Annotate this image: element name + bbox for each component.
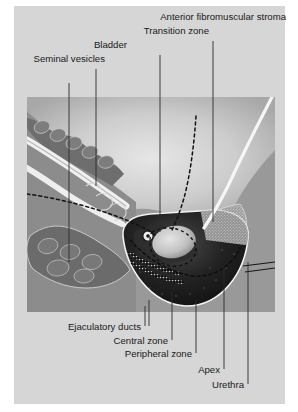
label-transition-zone: Transition zone bbox=[144, 25, 209, 36]
label-apex: Apex bbox=[198, 364, 220, 375]
label-bladder: Bladder bbox=[94, 39, 128, 50]
label-anterior-fibromuscular-stroma: Anterior fibromuscular stroma bbox=[160, 11, 286, 22]
label-peripheral-zone: Peripheral zone bbox=[125, 348, 192, 359]
label-central-zone: Central zone bbox=[114, 335, 168, 346]
figure-root: Anterior fibromuscular stroma Transition… bbox=[0, 0, 298, 412]
label-ejaculatory-ducts: Ejaculatory ducts bbox=[68, 321, 141, 332]
illustration-panel bbox=[27, 97, 275, 312]
label-urethra: Urethra bbox=[212, 379, 245, 390]
prostate-zonal-anatomy-diagram: Anterior fibromuscular stroma Transition… bbox=[0, 0, 298, 412]
label-seminal-vesicles: Seminal vesicles bbox=[34, 53, 106, 64]
